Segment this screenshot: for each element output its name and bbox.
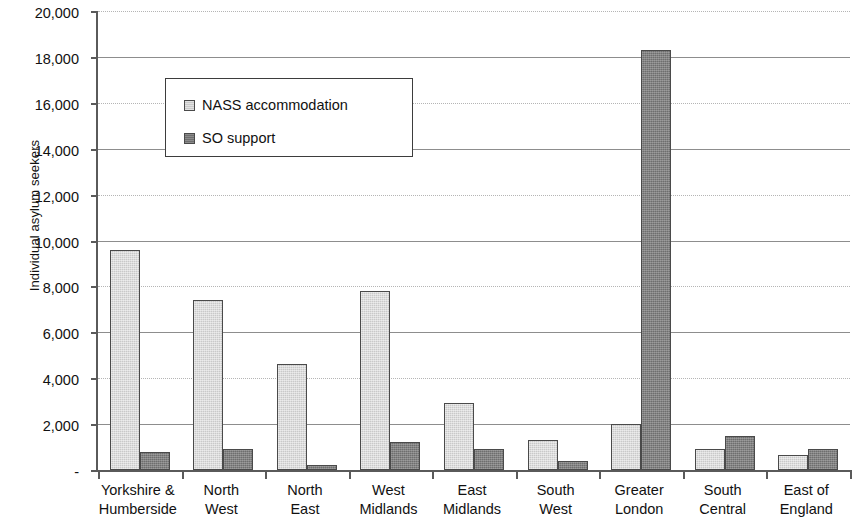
- bar-group: [516, 11, 600, 470]
- bar-group: [599, 11, 683, 470]
- y-axis-tick-label: 20,000: [35, 5, 79, 21]
- bar-so: [223, 449, 253, 470]
- y-axis-tick: 18,000: [91, 57, 98, 59]
- y-axis-tick: 10,000: [91, 241, 98, 243]
- x-axis-label-line: East of: [765, 481, 849, 500]
- x-axis-label: GreaterLondon: [597, 481, 681, 519]
- bar-nass: [277, 364, 307, 470]
- bar-chart: Individual asylum seekers 20,00018,00016…: [0, 0, 860, 525]
- x-axis-label-line: North: [263, 481, 347, 500]
- bar-nass: [528, 440, 558, 470]
- y-axis-tick-label: 4,000: [43, 372, 79, 388]
- x-axis-label: SouthCentral: [681, 481, 765, 519]
- bar-so: [140, 452, 170, 470]
- y-axis-tick: 20,000: [91, 11, 98, 13]
- y-axis-tick: 2,000: [91, 424, 98, 426]
- bar-group: [432, 11, 516, 470]
- bar-group: [767, 11, 851, 470]
- y-axis-tick-label: 6,000: [43, 326, 79, 342]
- bar-so: [390, 442, 420, 470]
- x-axis-label: NorthEast: [263, 481, 347, 519]
- bar-so: [808, 449, 838, 470]
- legend-label: NASS accommodation: [202, 97, 348, 113]
- bar-so: [558, 461, 588, 470]
- y-axis-tick-label: 16,000: [35, 97, 79, 113]
- x-axis-tick: [98, 470, 100, 479]
- x-axis-label-line: Yorkshire &: [96, 481, 180, 500]
- bar-so: [474, 449, 504, 470]
- x-axis-label-line: East: [263, 500, 347, 519]
- legend-label: SO support: [202, 130, 275, 146]
- y-axis-tick-label: 2,000: [43, 418, 79, 434]
- x-axis-label-line: Midlands: [430, 500, 514, 519]
- x-axis-label-line: Humberside: [96, 500, 180, 519]
- bar-nass: [778, 455, 808, 470]
- x-axis-tick: [265, 470, 267, 479]
- x-axis-label-line: Central: [681, 500, 765, 519]
- legend-item: NASS accommodation: [184, 91, 412, 119]
- x-axis-tick: [182, 470, 184, 479]
- y-axis-tick-label: 18,000: [35, 51, 79, 67]
- bar-nass: [360, 291, 390, 470]
- y-axis-tick: 12,000: [91, 195, 98, 197]
- bar-nass: [110, 250, 140, 470]
- bar-nass: [444, 403, 474, 470]
- y-axis-tick: 14,000: [91, 149, 98, 151]
- legend-item: SO support: [184, 124, 412, 152]
- x-axis-tick: [349, 470, 351, 479]
- x-axis-label: NorthWest: [180, 481, 264, 519]
- x-axis-label-line: South: [514, 481, 598, 500]
- x-axis-label-line: England: [765, 500, 849, 519]
- x-axis-label-line: West: [514, 500, 598, 519]
- x-axis-tick: [432, 470, 434, 479]
- y-axis-tick-label: 12,000: [35, 189, 79, 205]
- x-axis-tick: [766, 470, 768, 479]
- x-axis-label-line: East: [430, 481, 514, 500]
- y-axis-tick-label: -: [74, 464, 79, 480]
- legend-swatch-nass-icon: [184, 100, 195, 111]
- legend-swatch-so-icon: [184, 133, 195, 144]
- x-axis-label: East ofEngland: [765, 481, 849, 519]
- x-axis-label-line: Midlands: [347, 500, 431, 519]
- x-axis-tick: [683, 470, 685, 479]
- x-axis-labels: Yorkshire &HumbersideNorthWestNorthEastW…: [96, 481, 848, 519]
- bar-nass: [193, 300, 223, 470]
- x-axis-tick: [850, 470, 852, 479]
- x-axis-label-line: South: [681, 481, 765, 500]
- bar-nass: [611, 424, 641, 470]
- bar-nass: [695, 449, 725, 470]
- x-axis-label-line: Greater: [597, 481, 681, 500]
- bar-so: [307, 465, 337, 470]
- bar-group: [683, 11, 767, 470]
- x-axis-label-line: West: [347, 481, 431, 500]
- bar-so: [641, 50, 671, 470]
- y-axis-tick: -: [91, 470, 98, 472]
- x-axis-label-line: North: [180, 481, 264, 500]
- x-axis-label: Yorkshire &Humberside: [96, 481, 180, 519]
- legend: NASS accommodation SO support: [165, 78, 413, 157]
- y-axis-tick-label: 10,000: [35, 235, 79, 251]
- x-axis-tick: [516, 470, 518, 479]
- x-axis-label: EastMidlands: [430, 481, 514, 519]
- y-axis-title: Individual asylum seekers: [27, 86, 42, 346]
- x-axis-tick: [599, 470, 601, 479]
- y-axis-tick: 16,000: [91, 103, 98, 105]
- bar-so: [725, 436, 755, 470]
- y-axis-tick: 6,000: [91, 332, 98, 334]
- y-axis-tick: 4,000: [91, 378, 98, 380]
- y-axis-tick: 8,000: [91, 286, 98, 288]
- x-axis-label-line: West: [180, 500, 264, 519]
- x-axis-label: SouthWest: [514, 481, 598, 519]
- x-axis-label-line: London: [597, 500, 681, 519]
- y-axis-tick-label: 8,000: [43, 280, 79, 296]
- x-axis-label: WestMidlands: [347, 481, 431, 519]
- y-axis-tick-label: 14,000: [35, 143, 79, 159]
